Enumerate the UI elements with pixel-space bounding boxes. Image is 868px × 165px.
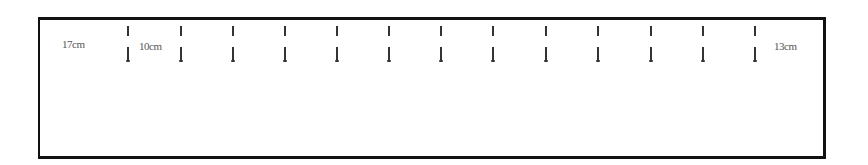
tick-upper-segment	[492, 26, 494, 36]
tick-upper-segment	[180, 26, 182, 36]
tick-lower-segment	[180, 47, 182, 61]
tick-lower-segment	[127, 47, 129, 61]
tick-upper-segment	[232, 26, 234, 36]
tick-upper-segment	[754, 26, 756, 36]
tick-upper-segment	[650, 26, 652, 36]
right-margin-label: 13cm	[774, 40, 796, 52]
tick-lower-segment	[336, 47, 338, 61]
tick-lower-segment	[284, 47, 286, 61]
tick-lower-segment	[650, 47, 652, 61]
first-gap-label: 10cm	[139, 40, 161, 52]
tick-upper-segment	[388, 26, 390, 36]
tick-upper-segment	[597, 26, 599, 36]
tick-lower-segment	[597, 47, 599, 61]
tick-lower-segment	[440, 47, 442, 61]
tick-lower-segment	[388, 47, 390, 61]
tick-upper-segment	[440, 26, 442, 36]
tick-upper-segment	[284, 26, 286, 36]
tick-lower-segment	[232, 47, 234, 61]
tick-lower-segment	[754, 47, 756, 61]
tick-upper-segment	[702, 26, 704, 36]
tick-upper-segment	[127, 26, 129, 36]
tick-lower-segment	[702, 47, 704, 61]
tick-upper-segment	[545, 26, 547, 36]
tick-upper-segment	[336, 26, 338, 36]
tick-lower-segment	[545, 47, 547, 61]
left-margin-label: 17cm	[62, 38, 84, 50]
tick-lower-segment	[492, 47, 494, 61]
outer-frame	[38, 17, 826, 159]
